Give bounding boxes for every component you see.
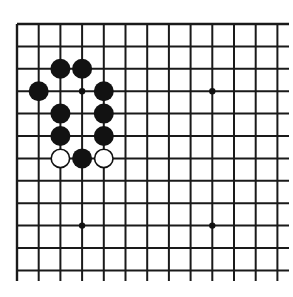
black-stone[interactable] — [29, 81, 49, 101]
black-stone[interactable] — [72, 59, 92, 79]
go-board[interactable] — [0, 0, 293, 297]
star-point-icon — [209, 222, 215, 228]
white-stone[interactable] — [95, 149, 113, 167]
black-stone[interactable] — [50, 59, 70, 79]
black-stone[interactable] — [94, 104, 114, 124]
black-stone[interactable] — [94, 81, 114, 101]
star-point-icon — [79, 222, 85, 228]
black-stone[interactable] — [94, 126, 114, 146]
white-stone[interactable] — [51, 149, 69, 167]
star-point-icon — [209, 88, 215, 94]
star-point-icon — [79, 88, 85, 94]
black-stone[interactable] — [50, 126, 70, 146]
black-stone[interactable] — [50, 104, 70, 124]
black-stone[interactable] — [72, 148, 92, 168]
